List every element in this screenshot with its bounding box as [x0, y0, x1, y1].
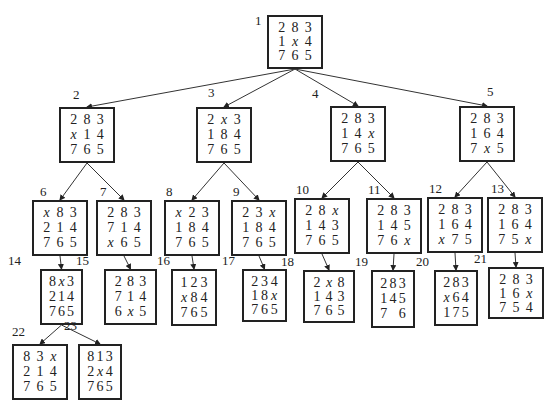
tree-edge-arrow [124, 256, 131, 269]
puzzle-cell: 7 [448, 232, 461, 247]
node-number-label: 3 [208, 85, 215, 101]
puzzle-cell: 8 [448, 203, 461, 218]
puzzle-cell: 3 [105, 350, 114, 365]
puzzle-cell: 1 [496, 287, 509, 301]
puzzle-cell: 4 [137, 290, 149, 305]
puzzle-cell: 1 [442, 305, 451, 320]
puzzle-cell: 4 [387, 219, 400, 234]
puzzle-cell: 8 [480, 112, 493, 127]
puzzle-cell: 8 [509, 273, 522, 287]
puzzle-cell: 4 [494, 127, 507, 142]
puzzle-cell: 6 [53, 235, 66, 250]
puzzle-cell: 5 [199, 235, 212, 250]
puzzle-cell: 2 [496, 273, 509, 287]
puzzle-cell: 3 [329, 219, 342, 234]
puzzle-cell: x [435, 232, 448, 247]
puzzle-cell: 2 [20, 365, 33, 380]
tree-edge-arrow [192, 163, 224, 200]
puzzle-cell: 6 [117, 235, 130, 250]
puzzle-cell: 5 [509, 301, 522, 315]
puzzle-cell: 1 [467, 127, 480, 142]
node-number-label: 12 [429, 181, 442, 197]
node-number-label: 9 [233, 184, 240, 200]
puzzle-cell: 2 [275, 21, 288, 35]
puzzle-cell: 7 [374, 233, 387, 248]
puzzle-cell: 3 [398, 276, 407, 291]
node-number-label: 19 [355, 254, 368, 270]
node-number-label: 8 [166, 184, 173, 200]
puzzle-cell: 8 [48, 275, 57, 290]
puzzle-cell: 5 [266, 235, 279, 250]
puzzle-cell: 8 [189, 290, 199, 305]
puzzle-cell: 1 [250, 289, 260, 303]
puzzle-state-node: x83214765 [32, 200, 88, 256]
puzzle-cell: 4 [388, 291, 397, 306]
puzzle-cell: 3 [494, 112, 507, 127]
puzzle-cell: 4 [269, 275, 279, 289]
puzzle-state-node: 28x143765 [294, 198, 350, 254]
puzzle-cell: 6 [95, 379, 104, 394]
puzzle-cell: 4 [105, 365, 114, 380]
puzzle-cell: 4 [94, 128, 107, 143]
puzzle-cell: 1 [179, 275, 189, 290]
puzzle-cell: 5 [461, 305, 470, 320]
puzzle-cell: x [104, 235, 117, 250]
puzzle-cell: 2 [185, 206, 198, 221]
puzzle-cell: x [57, 275, 66, 290]
puzzle-cell: x [288, 35, 301, 49]
tree-edge-arrow [60, 256, 62, 269]
puzzle-cell: 7 [338, 141, 351, 156]
puzzle-cell: 6 [189, 305, 199, 320]
puzzle-cell: 1 [374, 219, 387, 234]
tree-edge-arrow [295, 69, 487, 106]
puzzle-cell: 5 [66, 304, 75, 319]
puzzle-cell: 6 [351, 141, 364, 156]
puzzle-cell: 8 [117, 206, 130, 221]
puzzle-cell: 3 [523, 273, 536, 287]
puzzle-cell: 5 [462, 232, 475, 247]
puzzle-cell: 8 [315, 204, 328, 219]
puzzle-cell: 2 [302, 204, 315, 219]
puzzle-cell: 3 [522, 203, 535, 218]
puzzle-cell: 3 [252, 206, 265, 221]
puzzle-cell: 4 [315, 219, 328, 234]
puzzle-state-node: 283x14765 [59, 107, 115, 163]
puzzle-cell: 4 [231, 128, 244, 143]
puzzle-cell: x [480, 141, 493, 156]
node-number-label: 5 [487, 84, 494, 100]
puzzle-cell: x [522, 232, 535, 247]
puzzle-cell: 3 [131, 206, 144, 221]
puzzle-cell: 2 [338, 112, 351, 127]
puzzle-cell: x [95, 365, 104, 380]
puzzle-cell: 5 [398, 291, 407, 306]
puzzle-cell: 6 [509, 287, 522, 301]
puzzle-cell: x [523, 287, 536, 301]
puzzle-cell: 8 [351, 112, 364, 127]
puzzle-state-node: 283x64175 [434, 270, 478, 326]
puzzle-cell: 2 [435, 203, 448, 218]
puzzle-cell: 8 [80, 113, 93, 128]
node-number-label: 16 [157, 253, 170, 269]
puzzle-cell: 7 [311, 304, 323, 318]
puzzle-state-node: 8132x4765 [78, 344, 122, 400]
puzzle-cell: 3 [199, 206, 212, 221]
puzzle-cell: 3 [335, 290, 347, 304]
puzzle-cell: 1 [495, 218, 508, 233]
puzzle-cell: x [67, 128, 80, 143]
puzzle-cell: 4 [351, 127, 364, 142]
puzzle-cell: 7 [104, 221, 117, 236]
puzzle-cell: x [365, 127, 378, 142]
puzzle-cell: 2 [495, 203, 508, 218]
puzzle-cell: 7 [112, 290, 124, 305]
puzzle-cell: 1 [239, 221, 252, 236]
puzzle-cell: 2 [67, 113, 80, 128]
puzzle-cell: 4 [199, 290, 209, 305]
puzzle-cell: 2 [189, 275, 199, 290]
puzzle-cell: 1 [302, 219, 315, 234]
puzzle-cell: 7 [250, 303, 260, 317]
puzzle-cell: 7 [40, 235, 53, 250]
puzzle-cell: 4 [461, 291, 470, 306]
puzzle-cell: 6 [185, 235, 198, 250]
puzzle-cell: 5 [401, 219, 414, 234]
node-number-label: 14 [8, 253, 21, 269]
